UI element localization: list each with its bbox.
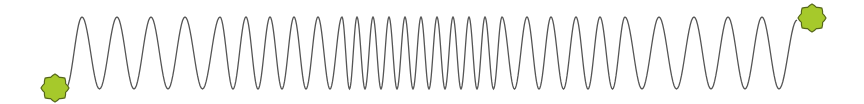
- left-anchor-star-icon: [41, 74, 69, 102]
- right-anchor-star-icon: [798, 4, 826, 32]
- wave-canvas: [0, 0, 864, 104]
- spring-wave-diagram: [0, 0, 864, 104]
- spring-wave-line: [66, 17, 797, 89]
